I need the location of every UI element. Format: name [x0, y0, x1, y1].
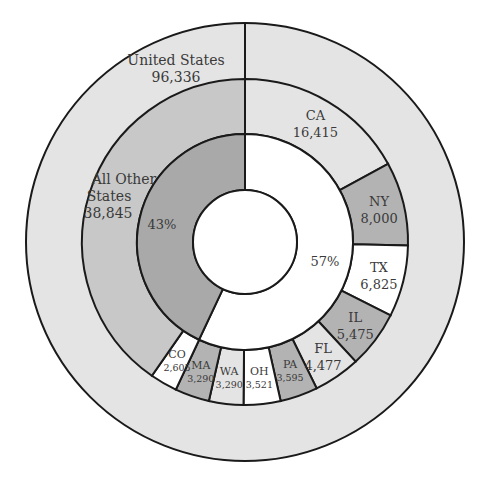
state-value-label: 5,475 — [337, 327, 374, 342]
state-value-label: 3,521 — [246, 379, 273, 390]
state-name-label: IL — [348, 310, 362, 325]
state-name-label: CA — [306, 108, 326, 123]
state-value-label: 16,415 — [293, 125, 339, 140]
center-hole — [193, 190, 297, 294]
state-name-label: FL — [314, 341, 332, 356]
other-states-label-line2: States — [87, 188, 132, 204]
state-name-label: WA — [220, 365, 240, 378]
state-value-label: 2,605 — [163, 362, 190, 373]
us-title-label: United States — [127, 52, 224, 68]
state-name-label: MA — [191, 359, 211, 372]
state-value-label: 3,290 — [216, 379, 243, 390]
state-value-label: 3,290 — [187, 373, 214, 384]
nested-donut-chart: United States 96,336 All Other States 38… — [0, 0, 487, 478]
state-name-label: CO — [168, 348, 185, 361]
inner-pct-other: 43% — [148, 217, 177, 232]
state-value-label: 3,595 — [276, 372, 303, 383]
other-states-value: 38,845 — [84, 205, 133, 221]
state-name-label: PA — [283, 358, 298, 371]
state-name-label: OH — [250, 365, 269, 378]
state-value-label: 4,477 — [304, 358, 341, 373]
inner-pct-top: 57% — [311, 254, 340, 269]
chart-rings — [26, 23, 464, 461]
other-states-label-line1: All Other — [91, 171, 157, 187]
state-value-label: 8,000 — [360, 211, 397, 226]
state-name-label: NY — [369, 194, 389, 209]
state-value-label: 6,825 — [360, 277, 397, 292]
us-value-label: 96,336 — [152, 69, 201, 85]
state-name-label: TX — [370, 260, 389, 275]
